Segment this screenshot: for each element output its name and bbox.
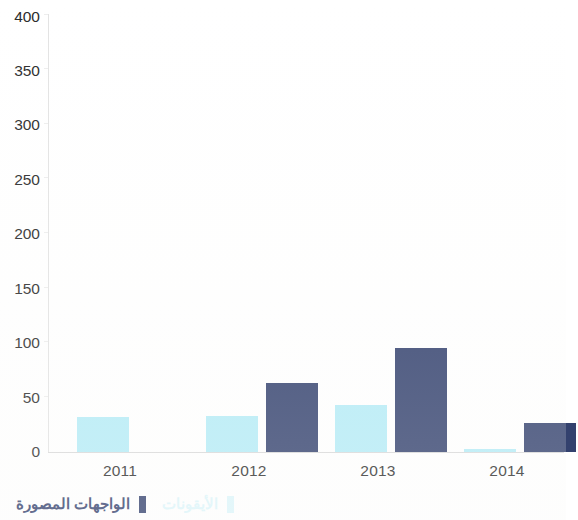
y-tick-label: 300 (0, 117, 40, 133)
legend-entry-icons[interactable]: الأيقونات (162, 494, 234, 514)
bar-group-2014 (452, 14, 578, 452)
x-tick-label-2013: 2013 (338, 461, 418, 481)
legend-label-interfaces: الواجهات المصورة (16, 494, 130, 514)
bar-icons-2013 (335, 405, 387, 452)
x-tick-label-2014: 2014 (467, 461, 547, 481)
bar-interfaces-2013 (395, 348, 447, 452)
y-tick-label: 350 (0, 63, 40, 79)
bar-group-2012 (194, 14, 320, 452)
bar-interfaces-2012 (266, 383, 318, 452)
y-tick-label: 0 (0, 444, 40, 460)
chart-legend: الأيقونات الواجهات المصورة (0, 491, 566, 517)
y-tick-label: 100 (0, 335, 40, 351)
bar-group-2013 (323, 14, 449, 452)
bar-icons-2012 (206, 416, 258, 452)
bar-interfaces-2014 (524, 423, 576, 452)
x-tick-label-2011: 2011 (80, 461, 160, 481)
bar-groups (49, 14, 564, 452)
bar-group-2011 (65, 14, 191, 452)
y-axis-labels: 400 350 300 250 200 150 100 50 0 (0, 0, 42, 520)
y-tick-label: 400 (0, 9, 40, 25)
x-axis-labels: 2011 2012 2013 2014 (0, 461, 566, 485)
y-tick-label: 50 (0, 390, 40, 406)
legend-swatch-icons-icon (227, 496, 234, 513)
y-tick-label: 250 (0, 172, 40, 188)
legend-swatch-interfaces-icon (139, 496, 146, 513)
bar-icons-2014 (464, 449, 516, 452)
x-tick-label-2012: 2012 (209, 461, 289, 481)
y-tick-label: 200 (0, 226, 40, 242)
y-tick-label: 150 (0, 281, 40, 297)
bar-icons-2011 (77, 417, 129, 452)
x-axis-line (48, 452, 564, 453)
legend-label-icons: الأيقونات (162, 494, 218, 514)
legend-entry-interfaces[interactable]: الواجهات المصورة (16, 494, 146, 514)
